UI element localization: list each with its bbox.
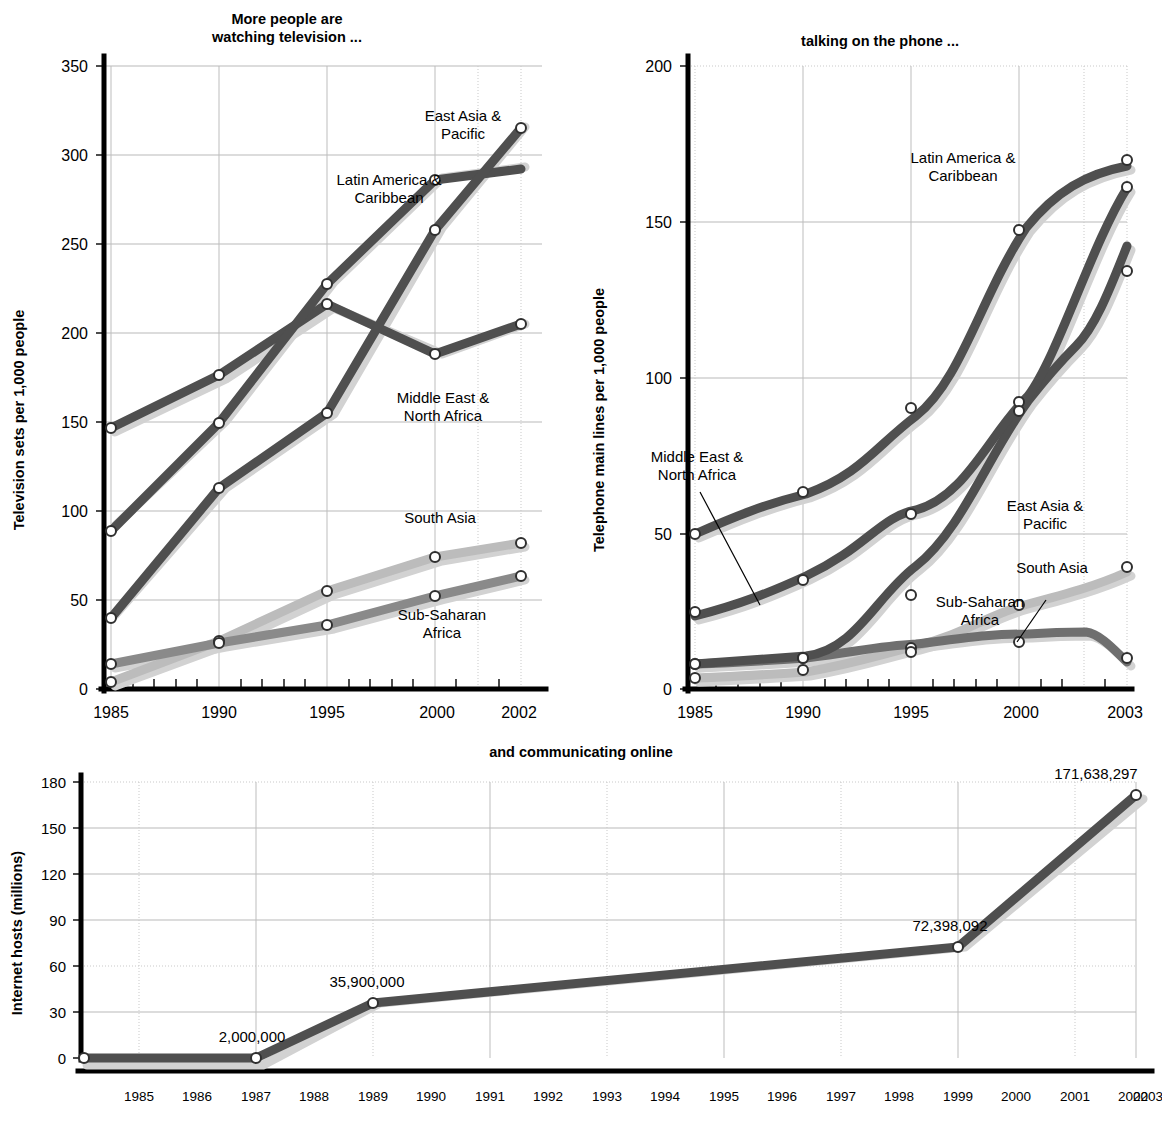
tv-label-south-asia: South Asia	[404, 509, 476, 526]
internet-xtick-1998: 1998	[884, 1089, 914, 1104]
tv-label-middle-east-l2: North Africa	[404, 407, 483, 424]
tv-horizontal-gridlines	[104, 66, 542, 600]
phone-label-middle-east-l1: Middle East &	[651, 448, 744, 465]
internet-y-tick-labels: 180 150 120 90 60 30 0	[41, 774, 66, 1067]
phone-ytick-50: 50	[654, 526, 672, 543]
phone-xtick-2000: 2000	[1003, 704, 1039, 721]
internet-xtick-1999: 1999	[943, 1089, 973, 1104]
tv-title-line2: watching television ...	[211, 29, 362, 45]
tv-label-east-asia-pacific-l2: Pacific	[441, 125, 486, 142]
internet-xtick-1985: 1985	[124, 1089, 154, 1104]
internet-chart-panel: and communicating online Internet hosts …	[0, 735, 1162, 1123]
internet-xtick-1990: 1990	[416, 1089, 446, 1104]
phone-ytick-0: 0	[663, 681, 672, 698]
phone-label-latin-america-l2: Caribbean	[928, 167, 997, 184]
tv-title-group: More people are watching television ...	[211, 11, 362, 45]
phone-ytick-100: 100	[645, 370, 672, 387]
phone-label-middle-east-l2: North Africa	[658, 466, 737, 483]
phone-series-shadows	[699, 170, 1131, 682]
tv-ytick-150: 150	[61, 414, 88, 431]
phone-xtick-2003: 2003	[1107, 704, 1143, 721]
phone-y-axis-title: Telephone main lines per 1,000 people	[591, 288, 607, 552]
tv-xtick-1995: 1995	[309, 704, 345, 721]
internet-value-1995: 35,900,000	[329, 973, 404, 990]
tv-ytick-100: 100	[61, 503, 88, 520]
phone-series-annotations: Latin America & Caribbean Middle East & …	[651, 149, 1089, 628]
internet-xtick-2001: 2001	[1060, 1089, 1090, 1104]
tv-ytick-200: 200	[61, 325, 88, 342]
tv-label-sub-saharan-l2: Africa	[423, 624, 462, 641]
phone-label-south-asia: South Asia	[1016, 559, 1088, 576]
internet-xtick-1986: 1986	[182, 1089, 212, 1104]
tv-ytick-50: 50	[70, 592, 88, 609]
internet-x-tick-labels: 1985 1986 1987 1988 1989 1990 1991 1992 …	[124, 1089, 1162, 1104]
tv-ytick-300: 300	[61, 147, 88, 164]
television-chart-svg: More people are watching television ... …	[0, 0, 580, 735]
tv-xtick-2002: 2002	[501, 704, 537, 721]
internet-xtick-1996: 1996	[767, 1089, 797, 1104]
tv-line-east-asia-pacific	[111, 128, 521, 618]
tv-ytick-350: 350	[61, 58, 88, 75]
tv-y-axis-title: Television sets per 1,000 people	[11, 310, 27, 531]
tv-y-tick-labels: 350 300 250 200 150 100 50 0	[61, 58, 88, 698]
internet-chart-svg: and communicating online Internet hosts …	[0, 735, 1162, 1123]
tv-title-line1: More people are	[231, 11, 342, 27]
telephone-chart-panel: talking on the phone ... Telephone main …	[580, 0, 1162, 735]
tv-xtick-1990: 1990	[201, 704, 237, 721]
internet-xtick-1997: 1997	[826, 1089, 856, 1104]
tv-label-latin-america-l2: Caribbean	[354, 189, 423, 206]
internet-title: and communicating online	[489, 744, 673, 760]
internet-point-labels: 2,000,000 35,900,000 72,398,092 171,638,…	[219, 765, 1138, 1045]
internet-ytick-120: 120	[41, 866, 66, 883]
tv-label-middle-east-l1: Middle East &	[397, 389, 490, 406]
tv-x-tick-labels: 1985 1990 1995 2000 2002	[93, 704, 537, 721]
internet-ytick-30: 30	[49, 1004, 66, 1021]
phone-label-sub-saharan-l1: Sub-Saharan	[936, 593, 1024, 610]
phone-ytick-150: 150	[645, 214, 672, 231]
internet-value-2000: 72,398,092	[912, 917, 987, 934]
phone-xtick-1990: 1990	[785, 704, 821, 721]
phone-ytick-200: 200	[645, 58, 672, 75]
internet-xtick-2003: 2003	[1133, 1089, 1162, 1104]
internet-xtick-1995: 1995	[709, 1089, 739, 1104]
internet-xtick-1987: 1987	[241, 1089, 271, 1104]
internet-xtick-1989: 1989	[358, 1089, 388, 1104]
internet-ytick-60: 60	[49, 958, 66, 975]
phone-label-east-asia-l1: East Asia &	[1007, 497, 1084, 514]
internet-xtick-1992: 1992	[533, 1089, 563, 1104]
internet-ytick-90: 90	[49, 912, 66, 929]
internet-ytick-0: 0	[58, 1050, 66, 1067]
internet-xtick-1993: 1993	[592, 1089, 622, 1104]
internet-value-1990: 2,000,000	[219, 1028, 286, 1045]
telephone-chart-svg: talking on the phone ... Telephone main …	[580, 0, 1162, 735]
phone-x-tick-labels: 1985 1990 1995 2000 2003	[677, 704, 1143, 721]
internet-xtick-1988: 1988	[299, 1089, 329, 1104]
internet-ytick-150: 150	[41, 820, 66, 837]
tv-label-east-asia-pacific-l1: East Asia &	[425, 107, 502, 124]
phone-horizontal-gridlines	[688, 66, 1127, 534]
internet-xtick-2000: 2000	[1001, 1089, 1031, 1104]
tv-ytick-250: 250	[61, 236, 88, 253]
phone-label-latin-america-l1: Latin America &	[910, 149, 1015, 166]
internet-value-2003: 171,638,297	[1054, 765, 1137, 782]
phone-title: talking on the phone ...	[801, 33, 959, 49]
phone-xtick-1995: 1995	[893, 704, 929, 721]
internet-xtick-1994: 1994	[650, 1089, 681, 1104]
phone-label-east-asia-l2: Pacific	[1023, 515, 1068, 532]
tv-label-sub-saharan-l1: Sub-Saharan	[398, 606, 486, 623]
phone-label-sub-saharan-l2: Africa	[961, 611, 1000, 628]
tv-ytick-0: 0	[79, 681, 88, 698]
internet-y-axis-title: Internet hosts (millions)	[9, 851, 25, 1016]
internet-ytick-180: 180	[41, 774, 66, 791]
phone-y-tick-labels: 200 150 100 50 0	[645, 58, 672, 698]
television-chart-panel: More people are watching television ... …	[0, 0, 580, 735]
internet-xtick-1991: 1991	[475, 1089, 505, 1104]
phone-xtick-1985: 1985	[677, 704, 713, 721]
tv-label-latin-america-l1: Latin America &	[336, 171, 441, 188]
tv-xtick-2000: 2000	[419, 704, 455, 721]
tv-xtick-1985: 1985	[93, 704, 129, 721]
